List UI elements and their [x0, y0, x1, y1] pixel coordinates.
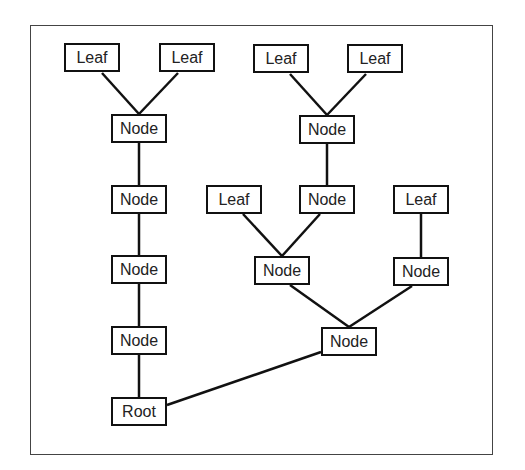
edge-nodeF-root — [167, 352, 321, 405]
root-node: Root — [111, 397, 167, 426]
edge-nodeE-nodeF — [349, 286, 412, 327]
leaf-node: Leaf — [393, 185, 449, 214]
edge-nodeC-nodeD — [282, 214, 320, 256]
internal-node: Node — [321, 327, 377, 356]
leaf-node: Leaf — [347, 44, 403, 73]
internal-node: Node — [393, 257, 449, 286]
internal-node: Node — [111, 326, 167, 355]
edge-leaf1-nodeA — [102, 73, 139, 114]
internal-node: Node — [111, 185, 167, 214]
edge-leaf3-nodeB — [290, 74, 327, 115]
leaf-node: Leaf — [64, 43, 120, 72]
edge-leaf2-nodeA — [139, 73, 178, 114]
internal-node: Node — [254, 256, 310, 285]
leaf-node: Leaf — [253, 44, 309, 73]
internal-node: Node — [111, 114, 167, 143]
internal-node: Node — [111, 255, 167, 284]
internal-node: Node — [299, 185, 355, 214]
leaf-node: Leaf — [206, 185, 262, 214]
edge-leaf4-nodeB — [327, 74, 366, 115]
leaf-node: Leaf — [159, 43, 215, 72]
edge-leaf5-nodeD — [243, 214, 282, 256]
edge-nodeD-nodeF — [290, 285, 349, 327]
internal-node: Node — [299, 115, 355, 144]
